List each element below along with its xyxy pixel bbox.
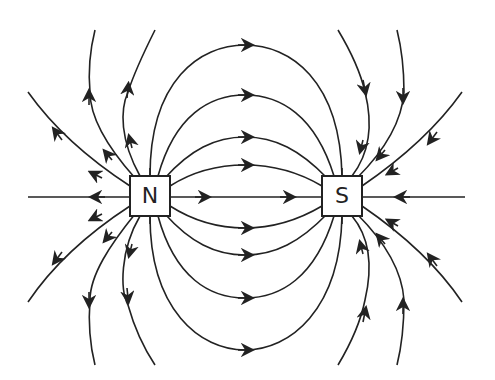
field-lines	[0, 0, 495, 380]
south-inward-top	[338, 30, 462, 186]
north-outward-top	[28, 30, 155, 186]
south-inward-bottom	[338, 206, 462, 365]
north-outward-bottom	[28, 206, 155, 365]
north-pole-label: N	[130, 176, 170, 216]
south-pole-label: S	[322, 176, 362, 216]
magnetic-field-diagram: N S	[0, 0, 495, 380]
